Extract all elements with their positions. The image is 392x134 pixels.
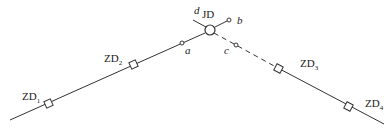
d-label: d [194, 4, 200, 16]
jd-label: JD [202, 8, 214, 20]
left-tangent-line [10, 33, 205, 120]
zd2-marker [129, 60, 138, 69]
jd-intersection-point [205, 25, 215, 35]
right-tangent-line [276, 67, 384, 124]
zd1-label: ZD1 [22, 90, 41, 105]
extension-line-d [193, 20, 206, 27]
a-label: a [185, 44, 191, 56]
extension-line-b [215, 21, 227, 27]
zd4-label: ZD4 [365, 97, 384, 112]
b-label: b [237, 14, 243, 26]
zd1-marker [44, 99, 53, 108]
point-c [234, 43, 238, 47]
zd3-marker [274, 64, 283, 73]
route-intersection-diagram: JD d b a c ZD1 ZD2 ZD3 ZD4 [0, 0, 392, 134]
c-label: c [224, 44, 229, 56]
zd2-label: ZD2 [104, 52, 123, 67]
point-a [180, 41, 184, 45]
zd3-label: ZD3 [300, 57, 319, 72]
point-b [227, 18, 231, 22]
